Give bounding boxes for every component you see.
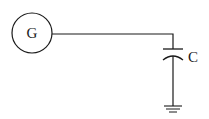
wire-generator-to-capacitor [52,34,173,49]
generator-symbol: G [12,13,52,53]
ground-icon [164,106,182,112]
generator-label: G [27,25,38,41]
capacitor-symbol: C [163,49,198,65]
capacitor-label: C [188,49,198,65]
circuit-diagram: G C [0,0,209,119]
